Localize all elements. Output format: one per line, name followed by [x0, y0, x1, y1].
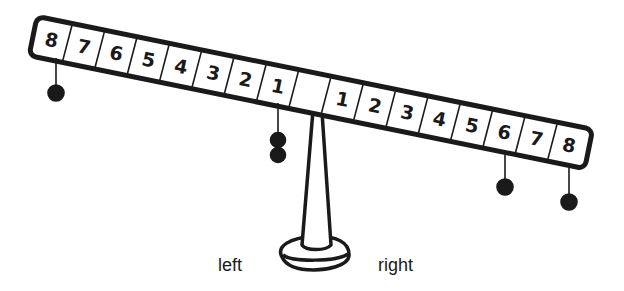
label-right: right [378, 255, 413, 275]
label-left: left [218, 255, 242, 275]
weight-ball-icon [48, 85, 64, 101]
stand-stem [302, 110, 331, 250]
weight-right-6 [497, 155, 513, 195]
weight-ball-icon [561, 194, 577, 210]
weight-ball-icon [497, 179, 513, 195]
weight-left-1 [271, 103, 286, 163]
weight-right-8 [561, 168, 577, 210]
weight-ball-icon [271, 148, 286, 163]
stand [281, 110, 349, 270]
balance-diagram: 8 7 6 5 4 3 2 1 1 2 3 4 5 6 7 8 [0, 0, 624, 291]
weight-ball-icon [271, 133, 286, 148]
